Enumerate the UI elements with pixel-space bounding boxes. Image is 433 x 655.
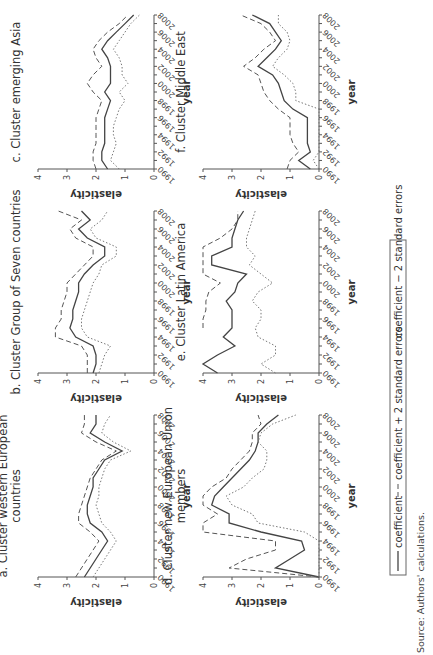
y-tick-label: 2 xyxy=(92,175,101,180)
y-axis-label: elasticity xyxy=(235,189,287,200)
x-tick-label: 1994 xyxy=(321,537,342,558)
y-tick-label: 2 xyxy=(257,379,266,384)
y-tick-label: 1 xyxy=(286,379,295,384)
y-tick-label: 4 xyxy=(34,175,43,180)
y-tick-label: 3 xyxy=(228,583,237,588)
x-tick-label: 1992 xyxy=(321,147,342,168)
y-tick-label: 3 xyxy=(228,175,237,180)
y-tick-label: 2 xyxy=(92,583,101,588)
x-tick-label: 2000 xyxy=(321,79,342,100)
x-tick-label: 1994 xyxy=(321,130,342,151)
x-tick-label: 2008 xyxy=(156,11,177,32)
plus-2se-line xyxy=(241,15,299,169)
y-tick-label: 2 xyxy=(92,379,101,384)
y-tick-label: 0 xyxy=(315,379,324,384)
y-tick-label: 4 xyxy=(34,583,43,588)
y-tick-label: 0 xyxy=(315,583,324,588)
plus-2se-line xyxy=(87,15,128,169)
y-axis-label: elasticity xyxy=(235,597,287,608)
y-tick-label: 0 xyxy=(150,583,159,588)
x-tick-label: 1998 xyxy=(321,501,342,522)
minus-2se-line xyxy=(93,415,131,577)
figure-frame: a. Cluster western Europeancountries0123… xyxy=(0,0,433,655)
x-tick-label: 2002 xyxy=(321,261,342,282)
x-tick-label: 2000 xyxy=(321,279,342,300)
y-tick-label: 0 xyxy=(150,379,159,384)
panel-f: f. Cluster Middle East01234elasticity199… xyxy=(174,11,357,200)
x-tick-label: 2000 xyxy=(321,483,342,504)
x-tick-label: 2004 xyxy=(321,243,342,264)
y-tick-label: 4 xyxy=(199,583,208,588)
panel-title: c. Cluster emerging Asia xyxy=(9,22,23,163)
coefficient-line xyxy=(252,15,310,169)
x-tick-label: 2006 xyxy=(321,28,342,49)
y-tick-label: 1 xyxy=(121,175,130,180)
elasticity-figure: a. Cluster western Europeancountries0123… xyxy=(0,0,433,655)
plus-2se-line xyxy=(203,415,319,577)
panel-title: d. Cluster new European Union xyxy=(161,407,175,585)
y-tick-label: 2 xyxy=(257,175,266,180)
y-tick-label: 2 xyxy=(257,583,266,588)
x-tick-label: 1990 xyxy=(156,369,177,390)
legend-label: coefficient xyxy=(393,496,404,548)
x-tick-label: 2002 xyxy=(321,465,342,486)
x-tick-label: 1996 xyxy=(321,519,342,540)
panel-title: b. Cluster Group of Seven countries xyxy=(9,189,23,394)
x-tick-label: 2004 xyxy=(321,447,342,468)
panel-title: f. Cluster Middle East xyxy=(174,31,188,153)
y-tick-label: 1 xyxy=(121,583,130,588)
y-tick-label: 3 xyxy=(63,379,72,384)
x-tick-label: 2006 xyxy=(321,225,342,246)
y-axis-label: elasticity xyxy=(70,597,122,608)
x-tick-label: 1990 xyxy=(321,573,342,594)
y-tick-label: 3 xyxy=(63,583,72,588)
x-tick-label: 1992 xyxy=(321,555,342,576)
y-axis-label: elasticity xyxy=(235,393,287,404)
minus-2se-line xyxy=(226,415,319,577)
coefficient-line xyxy=(84,415,122,577)
minus-2se-line xyxy=(247,211,276,373)
plus-2se-line xyxy=(55,211,93,373)
coefficient-line xyxy=(70,211,105,373)
panel-c: c. Cluster emerging Asia01234elasticity1… xyxy=(9,11,192,200)
x-tick-label: 2008 xyxy=(321,11,342,32)
coefficient-line xyxy=(203,211,247,373)
y-tick-label: 1 xyxy=(286,175,295,180)
x-axis-label: year xyxy=(346,79,357,104)
x-tick-label: 2006 xyxy=(321,429,342,450)
x-tick-label: 1998 xyxy=(321,297,342,318)
x-tick-label: 1990 xyxy=(156,165,177,186)
y-axis-label: elasticity xyxy=(70,189,122,200)
y-tick-label: 0 xyxy=(150,175,159,180)
x-tick-label: 1990 xyxy=(321,369,342,390)
legend: coefficientcoefficient + 2 standard erro… xyxy=(390,185,406,575)
y-tick-label: 3 xyxy=(63,175,72,180)
y-tick-label: 0 xyxy=(315,175,324,180)
x-tick-label: 1998 xyxy=(321,96,342,117)
y-tick-label: 1 xyxy=(121,379,130,384)
x-tick-label: 1992 xyxy=(321,351,342,372)
y-tick-label: 4 xyxy=(199,379,208,384)
x-axis-label: year xyxy=(346,279,357,304)
y-tick-label: 4 xyxy=(34,379,43,384)
coefficient-line xyxy=(102,15,134,169)
y-tick-label: 4 xyxy=(199,175,208,180)
x-tick-label: 1994 xyxy=(321,333,342,354)
legend-label: coefficient − 2 standard errors xyxy=(393,185,404,338)
panel-e: e. Cluster Latin America01234elasticity1… xyxy=(174,207,357,404)
y-axis-label: elasticity xyxy=(70,393,122,404)
y-tick-label: 1 xyxy=(286,583,295,588)
panel-title: members xyxy=(174,469,188,524)
x-axis-label: year xyxy=(346,483,357,508)
x-tick-label: 2004 xyxy=(321,45,342,66)
x-tick-label: 2002 xyxy=(321,62,342,83)
y-tick-label: 3 xyxy=(228,379,237,384)
minus-2se-line xyxy=(111,15,140,169)
panel-title: e. Cluster Latin America xyxy=(174,223,188,361)
figure-rotated-container: a. Cluster western Europeancountries0123… xyxy=(0,0,433,655)
minus-2se-line xyxy=(82,211,117,373)
x-tick-label: 2008 xyxy=(321,207,342,228)
panel-b: b. Cluster Group of Seven countries01234… xyxy=(9,189,192,404)
legend-label: coefficient + 2 standard errors xyxy=(393,327,404,480)
x-tick-label: 1996 xyxy=(321,315,342,336)
